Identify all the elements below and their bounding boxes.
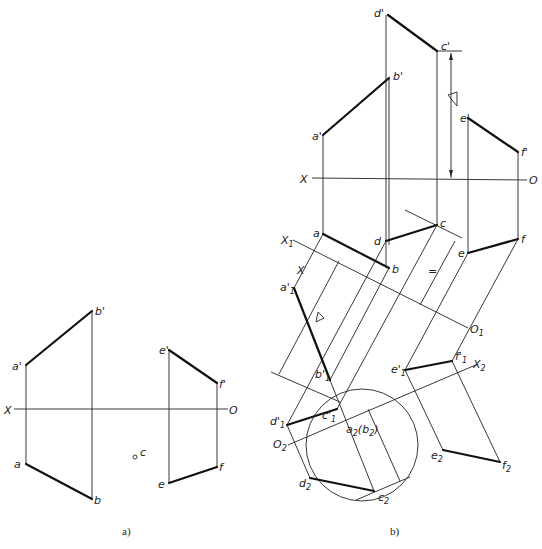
panel-a: X O a' b' a b e' f' e f c a) <box>3 305 238 538</box>
svg-text:X: X <box>299 173 308 186</box>
svg-text:a): a) <box>122 525 131 538</box>
line-e-f-top <box>468 239 518 253</box>
svg-text:d2: d2 <box>299 477 311 492</box>
line-a-prime-b-prime-b <box>323 78 389 135</box>
svg-text:e'1: e'1 <box>391 363 406 378</box>
svg-text:e': e' <box>460 112 470 125</box>
svg-text:b: b <box>392 263 399 276</box>
svg-text:X2: X2 <box>472 358 486 373</box>
svg-text:b: b <box>94 494 101 507</box>
line-e2-f2 <box>443 450 500 462</box>
svg-text:f: f <box>521 233 527 246</box>
svg-text:e2: e2 <box>431 449 443 464</box>
svg-text:c'1: c'1 <box>322 409 336 424</box>
svg-text:a': a' <box>12 360 22 373</box>
svg-text:a2(b2): a2(b2) <box>346 423 379 438</box>
line-e-f <box>169 467 217 483</box>
point-c <box>133 455 137 459</box>
line-a-b <box>26 464 92 499</box>
svg-text:f: f <box>219 461 225 474</box>
triangle-mark-icon <box>448 92 457 106</box>
svg-text:X: X <box>296 264 305 277</box>
line-e-prime-f-prime <box>169 350 217 383</box>
line-d-prime-c-prime <box>388 15 437 51</box>
svg-text:e': e' <box>159 344 169 357</box>
svg-text:=: = <box>428 265 437 278</box>
svg-text:X: X <box>3 404 12 417</box>
svg-text:O: O <box>229 404 238 417</box>
svg-text:O: O <box>529 174 538 187</box>
projection-diagram: X O a' b' a b e' f' e f c a) <box>0 0 542 549</box>
svg-text:d'1: d'1 <box>270 415 285 430</box>
line-a1-b1 <box>294 288 330 380</box>
svg-text:c2: c2 <box>378 491 389 506</box>
svg-text:b': b' <box>393 70 403 83</box>
x-axis-b <box>312 178 527 180</box>
svg-text:X1: X1 <box>280 234 294 249</box>
svg-text:c: c <box>140 446 146 459</box>
svg-text:b): b) <box>390 525 400 538</box>
svg-text:a: a <box>14 458 21 471</box>
line-d2-c2 <box>310 478 374 491</box>
svg-text:a: a <box>313 227 320 240</box>
circle <box>306 389 418 501</box>
svg-text:d: d <box>374 235 382 248</box>
line-a-prime-b-prime <box>26 311 92 365</box>
svg-text:O2: O2 <box>273 438 287 453</box>
svg-text:f': f' <box>521 146 528 159</box>
svg-text:d': d' <box>374 7 384 20</box>
triangle-mark-icon <box>316 312 324 322</box>
line-e-prime-f-prime-b <box>468 118 518 152</box>
svg-text:c': c' <box>441 40 450 53</box>
svg-text:O1: O1 <box>470 323 484 338</box>
panel-b: = X X O d' c' <box>270 7 538 538</box>
svg-text:e: e <box>158 478 165 491</box>
svg-text:b': b' <box>95 305 105 318</box>
svg-text:f2: f2 <box>502 459 511 474</box>
svg-text:e: e <box>458 247 465 260</box>
line-e1-f1 <box>405 361 452 370</box>
svg-text:b'1: b'1 <box>315 368 330 383</box>
svg-text:f': f' <box>219 378 226 391</box>
svg-text:a'1: a'1 <box>280 281 295 296</box>
svg-text:c: c <box>440 217 446 230</box>
svg-text:a': a' <box>312 130 322 143</box>
svg-text:f'1: f'1 <box>455 350 467 365</box>
